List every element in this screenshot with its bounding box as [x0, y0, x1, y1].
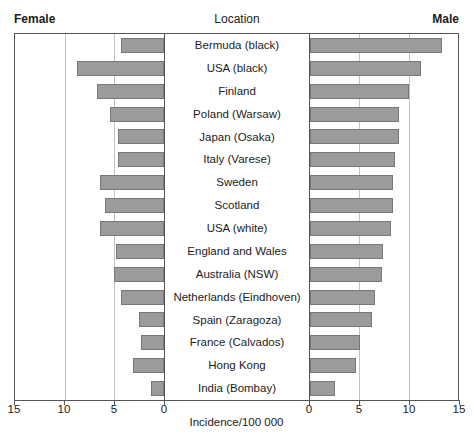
location-label: Italy (Varese) — [165, 148, 309, 171]
male-bar — [310, 312, 372, 327]
female-bar — [121, 38, 164, 53]
female-bar — [151, 381, 164, 396]
male-bar — [310, 152, 395, 167]
female-bar — [121, 290, 164, 305]
male-bar — [310, 267, 382, 282]
female-bar — [116, 244, 164, 259]
location-label: Japan (Osaka) — [165, 126, 309, 149]
female-bar — [97, 84, 164, 99]
axis-tick-label: 0 — [306, 403, 312, 415]
location-label: Sweden — [165, 171, 309, 194]
female-bar — [110, 107, 164, 122]
axis-tick-label: 5 — [356, 403, 362, 415]
location-label: Finland — [165, 80, 309, 103]
female-panel — [14, 34, 165, 400]
male-axis-header: Male — [309, 12, 459, 26]
axis-tick-label: 0 — [161, 403, 167, 415]
location-label: Bermuda (black) — [165, 34, 309, 57]
male-bar — [310, 290, 375, 305]
location-label: Poland (Warsaw) — [165, 103, 309, 126]
location-label: India (Bombay) — [165, 377, 309, 400]
male-bar — [310, 38, 442, 53]
male-bar — [310, 335, 360, 350]
male-bar — [310, 381, 335, 396]
male-bar — [310, 244, 383, 259]
location-label: Australia (NSW) — [165, 263, 309, 286]
location-label: Hong Kong — [165, 354, 309, 377]
x-axis-title: Incidence/100 000 — [14, 416, 459, 428]
location-label: Spain (Zaragoza) — [165, 309, 309, 332]
female-bar — [77, 61, 164, 76]
axis-tick-label: 15 — [8, 403, 21, 415]
male-bar — [310, 198, 393, 213]
male-bar — [310, 61, 421, 76]
location-label: England and Wales — [165, 240, 309, 263]
location-labels-column: Bermuda (black)USA (black)FinlandPoland … — [165, 34, 309, 400]
location-column-header: Location — [165, 12, 309, 26]
axis-tick-label: 10 — [58, 403, 71, 415]
axis-tick-label: 5 — [111, 403, 117, 415]
male-bar — [310, 107, 399, 122]
female-bar — [100, 175, 164, 190]
female-bar — [141, 335, 164, 350]
male-bar — [310, 84, 409, 99]
axis-tick-label: 15 — [453, 403, 466, 415]
location-label: USA (white) — [165, 217, 309, 240]
gridline — [409, 34, 410, 400]
female-bar — [139, 312, 164, 327]
chart-area: Bermuda (black)USA (black)FinlandPoland … — [14, 33, 459, 401]
female-bar — [100, 221, 164, 236]
female-bar — [133, 358, 164, 373]
location-label: USA (black) — [165, 57, 309, 80]
female-bar — [105, 198, 164, 213]
location-label: Scotland — [165, 194, 309, 217]
male-panel — [309, 34, 459, 400]
male-bar — [310, 221, 391, 236]
axis-tick-label: 10 — [403, 403, 416, 415]
location-label: France (Calvados) — [165, 331, 309, 354]
male-bar — [310, 358, 356, 373]
male-bar — [310, 175, 393, 190]
female-axis-header: Female — [14, 12, 55, 26]
female-bar — [114, 267, 164, 282]
male-bar — [310, 129, 399, 144]
female-bar — [118, 152, 164, 167]
incidence-pyramid-chart: Female Location Male Bermuda (black)USA … — [0, 0, 474, 447]
gridline — [65, 34, 66, 400]
location-label: Netherlands (Eindhoven) — [165, 286, 309, 309]
female-bar — [118, 129, 164, 144]
